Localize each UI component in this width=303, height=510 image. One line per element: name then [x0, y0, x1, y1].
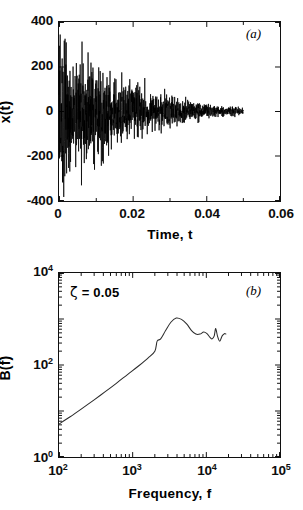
ytick-a-neg400: -400 [10, 194, 53, 208]
xtick-a-004: 0.04 [194, 207, 219, 221]
zeta-symbol: ζ [70, 284, 78, 300]
xtick-b-1e5: 105 [271, 464, 291, 478]
ytick-b-1e4: 104 [8, 265, 53, 279]
figure-container: 400 200 0 -200 -400 0 0.02 0.04 0.06 Tim… [0, 0, 303, 510]
xtick-b-1e2: 102 [48, 464, 68, 478]
ytick-a-200: 200 [10, 59, 53, 73]
xtick-b-1e2-exponent: 2 [63, 462, 68, 472]
xtick-b-1e3-exponent: 3 [137, 462, 142, 472]
xtick-b-1e4-exponent: 4 [212, 462, 217, 472]
spectrum-plot [59, 273, 280, 457]
xtick-b-1e3-mantissa: 10 [122, 463, 137, 478]
xtick-b-1e2-mantissa: 10 [48, 463, 63, 478]
tick-marks-b [59, 273, 280, 457]
ytick-b-1e0: 100 [8, 451, 53, 465]
xaxis-label-b: Frequency, f [129, 486, 212, 501]
ytick-b-1e0-exponent: 0 [48, 449, 53, 459]
ytick-b-1e2-exponent: 2 [48, 356, 53, 366]
xtick-a-0: 0 [54, 207, 61, 221]
ytick-a-neg200: -200 [10, 149, 53, 163]
plot-area-a [58, 21, 281, 202]
xaxis-label-a: Time, t [147, 227, 192, 242]
signal-trace [59, 35, 243, 197]
spectrum-trace [59, 318, 226, 424]
ytick-b-1e2: 102 [8, 358, 53, 372]
ytick-b-1e0-mantissa: 10 [33, 450, 48, 465]
xtick-b-1e3: 103 [122, 464, 142, 478]
xtick-b-1e5-mantissa: 10 [271, 463, 286, 478]
yaxis-label-a: x(t) [0, 101, 13, 124]
time-series-plot [59, 22, 280, 201]
xtick-a-002: 0.02 [119, 207, 144, 221]
xtick-b-1e5-exponent: 5 [286, 462, 291, 472]
ytick-a-0: 0 [10, 104, 53, 118]
ytick-b-1e2-mantissa: 10 [33, 357, 48, 372]
panel-b: 104 102 100 102 103 104 105 Frequency, f… [0, 255, 303, 510]
panel-a: 400 200 0 -200 -400 0 0.02 0.04 0.06 Tim… [0, 0, 303, 255]
xtick-a-006: 0.06 [268, 207, 293, 221]
ytick-a-400: 400 [10, 14, 53, 28]
zeta-value: = 0.05 [78, 285, 120, 300]
ytick-b-1e4-exponent: 4 [48, 263, 53, 273]
panel-tag-a: (a) [246, 26, 261, 42]
damping-annotation: ζ = 0.05 [70, 284, 119, 300]
panel-tag-b: (b) [246, 283, 261, 299]
yaxis-label-b: B(f) [0, 356, 13, 381]
ytick-b-1e4-mantissa: 10 [33, 264, 48, 279]
xtick-b-1e4: 104 [197, 464, 217, 478]
xtick-b-1e4-mantissa: 10 [197, 463, 212, 478]
